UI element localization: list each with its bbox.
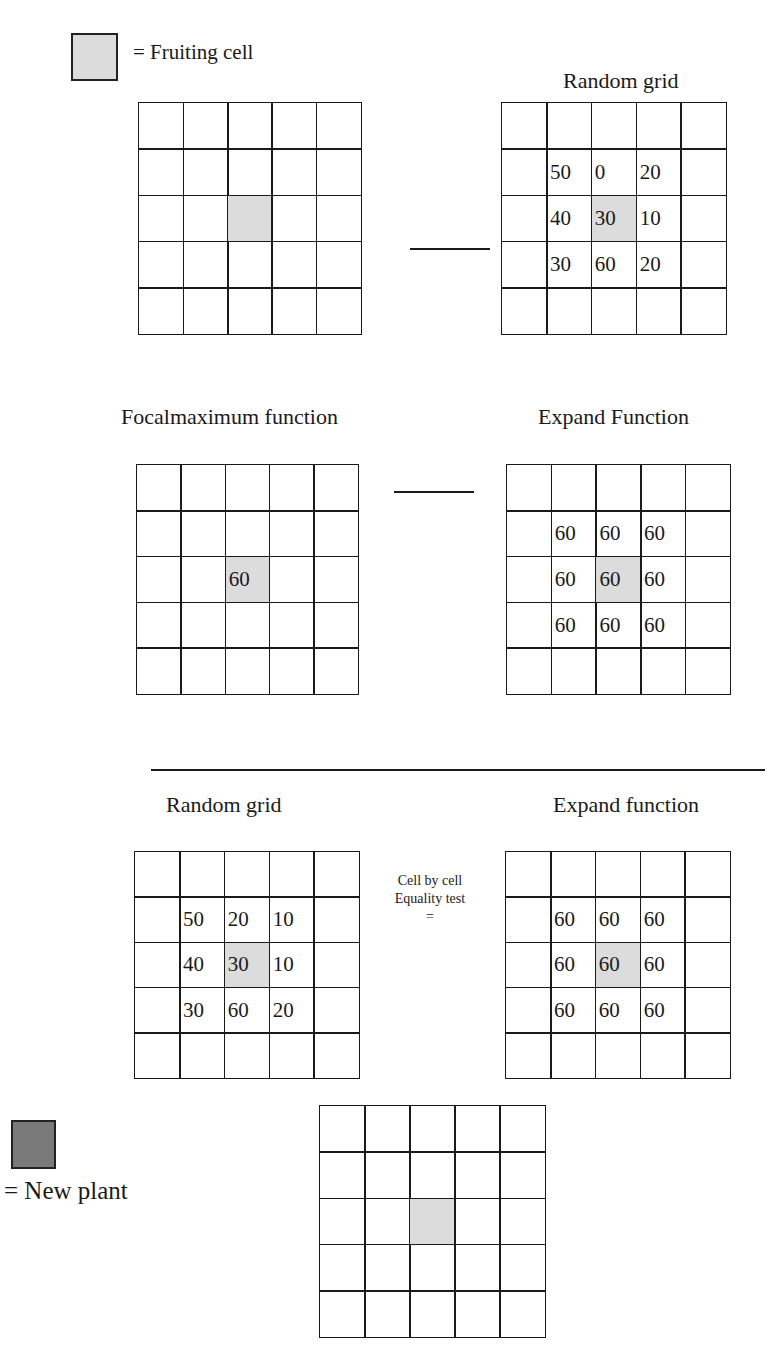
grid-cell: 60 (595, 896, 641, 943)
grid-cell: 60 (551, 510, 597, 557)
grid-cell (364, 1290, 411, 1338)
grid-cell (640, 647, 686, 694)
grid-cell (501, 148, 547, 196)
grid-cell (183, 195, 229, 243)
grid-cell (316, 195, 362, 243)
grid-cell: 40 (179, 942, 225, 989)
grid-cell (136, 647, 182, 694)
expand-function-grid-2: 606060606060606060 (505, 851, 731, 1079)
grid-cell: 60 (595, 987, 641, 1034)
random-grid-title-2: Random grid (166, 792, 282, 818)
focalmaximum-title: Focalmaximum function (121, 404, 338, 430)
grid-cell (138, 102, 184, 150)
grid-cell: 60 (551, 602, 597, 649)
grid-cell (319, 1198, 366, 1246)
grid-cell (313, 942, 359, 989)
equality-test-note: Cell by cell Equality test = (366, 872, 494, 926)
grid-cell: 20 (636, 241, 682, 289)
grid-cell: 60 (591, 241, 637, 289)
grid-cell (179, 1032, 225, 1079)
new-plant-swatch (11, 1120, 56, 1169)
grid-cell (595, 851, 641, 898)
grid-cell (364, 1198, 411, 1246)
grid-cell (409, 1244, 456, 1292)
grid-cell: 50 (179, 896, 225, 943)
grid-cell (134, 1032, 180, 1079)
grid-cell (550, 851, 596, 898)
grid-cell (313, 851, 359, 898)
grid-cell (501, 195, 547, 243)
grid-cell (183, 102, 229, 150)
grid-cell (180, 464, 226, 511)
grid-cell (595, 464, 641, 511)
grid-cell (505, 942, 551, 989)
grid-cell (269, 1032, 315, 1079)
grid-cell (271, 241, 317, 289)
grid-cell (506, 556, 552, 603)
grid-cell (409, 1290, 456, 1338)
grid-cell: 60 (550, 942, 596, 989)
equality-note-line2: Equality test (366, 890, 494, 908)
grid-cell: 60 (640, 987, 686, 1034)
grid-cell (138, 287, 184, 335)
fruiting-cell: 30 (224, 942, 270, 989)
grid-cell: 30 (179, 987, 225, 1034)
random-grid-2: 502010403010306020 (134, 851, 360, 1079)
grid-cell (636, 287, 682, 335)
grid-cell (364, 1151, 411, 1199)
grid-cell (313, 647, 359, 694)
grid-cell (316, 241, 362, 289)
grid-cell: 20 (636, 148, 682, 196)
grid-cell (269, 647, 315, 694)
grid-cell (179, 851, 225, 898)
grid-cell (227, 148, 273, 196)
grid-cell (505, 1032, 551, 1079)
grid-cell (591, 102, 637, 150)
grid-cell (499, 1198, 546, 1246)
grid-cell (506, 602, 552, 649)
initial-grid (138, 102, 362, 335)
grid-cell (136, 510, 182, 557)
grid-cell (505, 851, 551, 898)
grid-cell (225, 602, 271, 649)
grid-cell (269, 851, 315, 898)
fruiting-cell-legend-label: = Fruiting cell (133, 40, 253, 65)
grid-cell: 10 (636, 195, 682, 243)
random-grid: 50020403010306020 (501, 102, 727, 335)
new-plant-legend-label: = New plant (4, 1177, 128, 1205)
grid-cell (409, 1151, 456, 1199)
grid-cell: 60 (595, 510, 641, 557)
grid-cell (269, 464, 315, 511)
grid-cell (313, 602, 359, 649)
grid-cell (685, 647, 731, 694)
grid-cell: 60 (550, 987, 596, 1034)
expand-function-title: Expand Function (538, 404, 689, 430)
grid-cell: 30 (546, 241, 592, 289)
grid-cell (680, 102, 726, 150)
grid-cell (505, 896, 551, 943)
grid-cell (319, 1244, 366, 1292)
grid-cell: 60 (640, 942, 686, 989)
grid-cell (136, 556, 182, 603)
grid-cell (183, 148, 229, 196)
grid-cell (225, 510, 271, 557)
grid-cell (505, 987, 551, 1034)
grid-cell: 10 (269, 942, 315, 989)
grid-cell (225, 647, 271, 694)
grid-cell (501, 287, 547, 335)
grid-cell (227, 241, 273, 289)
grid-cell (640, 1032, 686, 1079)
grid-cell (138, 148, 184, 196)
grid-cell (685, 556, 731, 603)
grid-cell (454, 1244, 501, 1292)
grid-cell (546, 102, 592, 150)
grid-cell (313, 556, 359, 603)
grid-cell (134, 987, 180, 1034)
grid-cell (180, 647, 226, 694)
grid-cell (313, 987, 359, 1034)
grid-cell (269, 602, 315, 649)
grid-cell: 50 (546, 148, 592, 196)
grid-cell (313, 1032, 359, 1079)
focalmaximum-grid: 60 (136, 464, 359, 695)
grid-cell (225, 464, 271, 511)
